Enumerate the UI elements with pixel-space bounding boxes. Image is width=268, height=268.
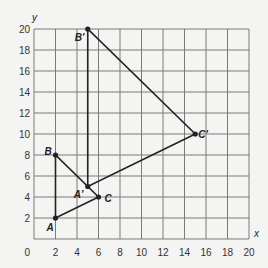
y-tick-label: 12 (19, 108, 31, 119)
x-tick-label: 6 (96, 247, 102, 258)
y-tick-label: 4 (24, 192, 30, 203)
vertex-label: B (45, 146, 52, 157)
vertex-label: C' (198, 129, 208, 140)
vertex-label: C (105, 193, 113, 204)
vertex-point (96, 194, 101, 199)
vertex-point (53, 215, 58, 220)
y-tick-label: 6 (24, 171, 30, 182)
y-tick-label: 10 (19, 129, 31, 140)
graph-svg: 246810121416182024681012141618200xyABCA'… (0, 0, 268, 268)
x-axis-label: x (253, 228, 260, 239)
y-tick-label: 2 (24, 213, 30, 224)
vertex-point (85, 26, 90, 31)
vertex-label: B' (75, 32, 85, 43)
y-axis-label: y (31, 12, 38, 23)
coordinate-plane: 246810121416182024681012141618200xyABCA'… (0, 0, 268, 268)
vertex-label: A (46, 222, 54, 233)
x-tick-label: 12 (157, 247, 169, 258)
y-tick-label: 16 (19, 66, 31, 77)
x-tick-label: 18 (222, 247, 234, 258)
x-tick-label: 2 (53, 247, 59, 258)
x-tick-label: 10 (136, 247, 148, 258)
x-tick-label: 16 (200, 247, 212, 258)
x-tick-label: 4 (74, 247, 80, 258)
x-tick-label: 8 (117, 247, 123, 258)
vertex-point (53, 152, 58, 157)
y-tick-label: 20 (19, 24, 31, 35)
vertex-point (193, 131, 198, 136)
origin-label: 0 (24, 247, 30, 258)
y-tick-label: 18 (19, 45, 31, 56)
vertex-label: A' (73, 189, 84, 200)
x-tick-label: 14 (179, 247, 191, 258)
vertex-point (85, 184, 90, 189)
y-tick-label: 8 (24, 150, 30, 161)
x-tick-label: 20 (243, 247, 255, 258)
y-tick-label: 14 (19, 87, 31, 98)
